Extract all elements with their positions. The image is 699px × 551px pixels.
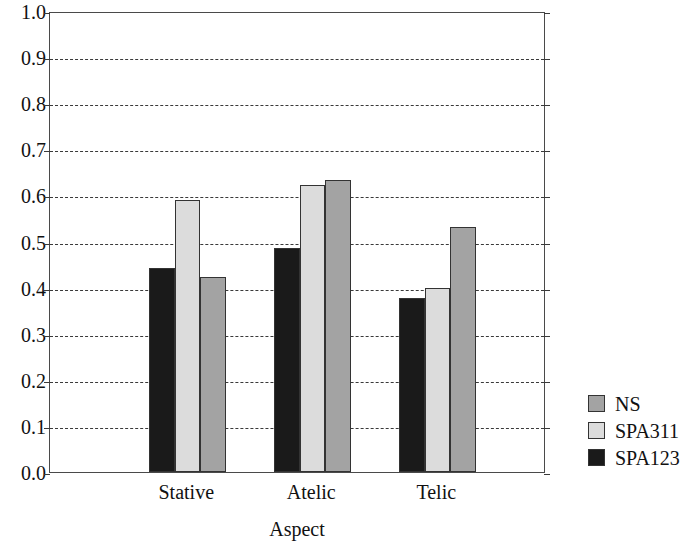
axis-tick-mark [544,336,550,337]
y-axis-tick-label: 0.4 [2,279,46,299]
legend-label: SPA311 [615,421,679,441]
legend-swatch-icon [588,422,605,439]
plot-area [49,12,545,473]
legend-label: SPA123 [615,448,680,468]
axis-tick-mark [44,197,50,198]
legend-swatch-icon [588,395,605,412]
axis-tick-mark [544,13,550,14]
bar-ns-stative [200,277,226,472]
bar-spa123-stative [149,268,175,472]
gridline [50,197,544,198]
axis-tick-mark [544,59,550,60]
y-axis-tick-label: 0.9 [2,48,46,68]
legend-label: NS [615,394,641,414]
y-axis-tick-labels: 1.00.90.80.70.60.50.40.30.20.10.0 [0,0,46,551]
legend-item: NS [588,390,698,417]
y-axis-tick-label: 0.7 [2,140,46,160]
axis-tick-mark [544,244,550,245]
x-axis-title: Aspect [49,518,545,541]
bar-spa123-atelic [274,248,300,473]
axis-tick-mark [44,244,50,245]
axis-tick-mark [44,13,50,14]
bar-spa123-telic [399,298,425,472]
y-axis-tick-label: 1.0 [2,2,46,22]
x-axis-category-label: Atelic [241,481,381,503]
bar-ns-atelic [325,180,351,472]
x-axis-category-label: Stative [116,481,256,503]
axis-tick-mark [44,290,50,291]
legend-item: SPA123 [588,444,698,471]
axis-tick-mark [44,151,50,152]
axis-tick-mark [544,197,550,198]
y-axis-tick-label: 0.3 [2,325,46,345]
y-axis-tick-label: 0.0 [2,463,46,483]
axis-tick-mark [44,105,50,106]
bar-chart: 1.00.90.80.70.60.50.40.30.20.10.0 Stativ… [0,0,699,551]
axis-tick-mark [544,151,550,152]
axis-tick-mark [544,382,550,383]
axis-tick-mark [544,428,550,429]
axis-tick-mark [44,336,50,337]
axis-tick-mark [44,382,50,383]
chart-legend: NSSPA311SPA123 [588,390,698,471]
bar-spa311-stative [175,200,201,472]
axis-tick-mark [44,474,50,475]
axis-tick-mark [544,105,550,106]
y-axis-tick-label: 0.8 [2,94,46,114]
axis-tick-mark [44,59,50,60]
y-axis-tick-label: 0.5 [2,233,46,253]
gridline [50,105,544,106]
bar-spa311-atelic [300,185,326,472]
bar-ns-telic [450,227,476,472]
gridline [50,151,544,152]
bar-spa311-telic [425,288,451,472]
gridline [50,59,544,60]
y-axis-tick-label: 0.2 [2,371,46,391]
y-axis-tick-label: 0.6 [2,186,46,206]
x-axis-category-label: Telic [366,481,506,503]
y-axis-tick-label: 0.1 [2,417,46,437]
legend-swatch-icon [588,449,605,466]
legend-item: SPA311 [588,417,698,444]
axis-tick-mark [44,428,50,429]
axis-tick-mark [544,474,550,475]
axis-tick-mark [544,290,550,291]
